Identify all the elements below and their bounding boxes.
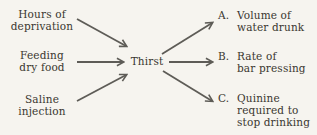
- arrow-deprivation-to-thirst: [77, 19, 126, 46]
- effect-label: Quinine required to stop drinking: [237, 93, 310, 128]
- effect-label-line: stop drinking: [237, 117, 310, 129]
- effect-letter: A.: [218, 10, 237, 22]
- effect-letter: C.: [218, 93, 237, 105]
- cause-label-line: deprivation: [4, 21, 80, 33]
- arrow-thirst-to-volume: [162, 23, 212, 54]
- effect-label-line: water drunk: [237, 22, 304, 34]
- effect-label-line: bar pressing: [237, 63, 306, 75]
- arrow-thirst-to-quinine: [163, 71, 212, 101]
- cause-label-line: dry food: [4, 62, 80, 74]
- center-node-thirst: Thirst: [128, 56, 166, 68]
- effect-quinine-required-to-stop-drinking: C. Quinine required to stop drinking: [218, 93, 310, 128]
- effect-label: Volume of water drunk: [237, 10, 304, 34]
- effect-volume-of-water-drunk: A. Volume of water drunk: [218, 10, 304, 34]
- center-node-label: Thirst: [131, 55, 164, 67]
- effect-rate-of-bar-pressing: B. Rate of bar pressing: [218, 51, 306, 75]
- thirst-intervening-variable-diagram: Hours of deprivation Feeding dry food Sa…: [0, 0, 317, 135]
- cause-hours-of-deprivation: Hours of deprivation: [4, 9, 80, 33]
- cause-saline-injection: Saline injection: [4, 94, 80, 118]
- cause-label-line: injection: [4, 106, 80, 118]
- effect-letter: B.: [218, 51, 237, 63]
- effect-label-line: required to: [237, 105, 310, 117]
- arrow-saline-to-thirst: [77, 75, 126, 101]
- effect-label: Rate of bar pressing: [237, 51, 306, 75]
- cause-feeding-dry-food: Feeding dry food: [4, 50, 80, 74]
